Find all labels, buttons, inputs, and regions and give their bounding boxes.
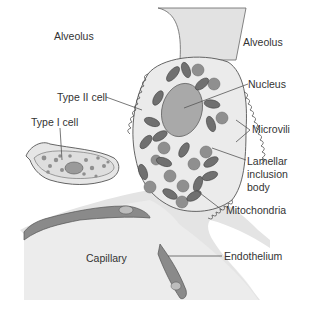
label-nucleus: Nucleus [248,78,286,90]
label-type-i-cell: Type I cell [31,116,78,128]
label-lamellar-inclusion-body: Lamellar inclusion body [247,155,288,194]
label-capillary: Capillary [86,252,127,264]
label-microvili: Microvili [252,123,290,135]
endothelium-nucleus-upper [119,206,133,214]
endothelium-nucleus-right [171,282,181,290]
interstitium-upper [158,8,246,60]
label-type-ii-cell: Type II cell [57,91,107,103]
label-mitochondria: Mitochondria [226,204,286,216]
label-alveolus-right: Alveolus [243,36,283,48]
label-endothelium: Endothelium [224,250,282,262]
type-i-cell [26,143,119,185]
label-alveolus-left: Alveolus [54,30,94,42]
type-i-nucleus [65,162,83,174]
